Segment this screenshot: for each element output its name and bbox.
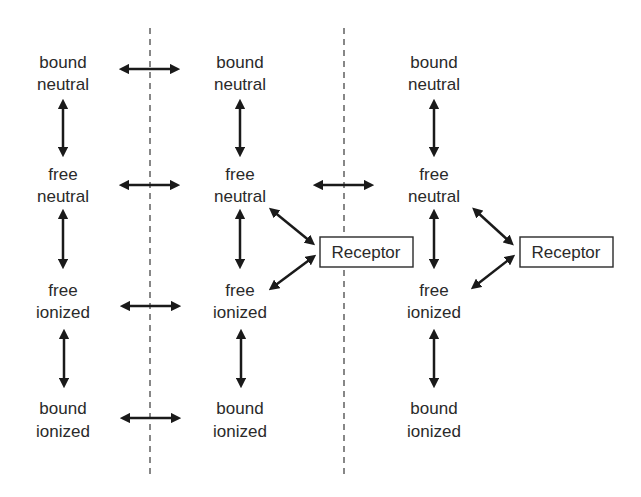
node-free-neutral: free: [225, 165, 254, 184]
svg-text:neutral: neutral: [214, 75, 266, 94]
node-bound-neutral: bound: [410, 53, 457, 72]
svg-text:Receptor: Receptor: [332, 243, 401, 262]
double-arrow-icon: [273, 258, 312, 287]
svg-text:ionized: ionized: [213, 422, 267, 441]
node-bound-ionized: bound: [410, 399, 457, 418]
node-bound-neutral: bound: [216, 53, 263, 72]
node-free-ionized: free: [419, 281, 448, 300]
double-arrow-icon: [273, 211, 311, 242]
node-free-ionized: free: [48, 281, 77, 300]
double-arrow-icon: [475, 258, 511, 286]
svg-text:neutral: neutral: [37, 187, 89, 206]
node-bound-ionized: bound: [39, 399, 86, 418]
receptor-2: Receptor: [520, 237, 613, 267]
svg-text:Receptor: Receptor: [532, 243, 601, 262]
double-arrow-icon: [476, 211, 510, 242]
node-bound-ionized: bound: [216, 399, 263, 418]
receptor-1: Receptor: [320, 237, 413, 267]
svg-text:neutral: neutral: [214, 187, 266, 206]
svg-text:neutral: neutral: [37, 75, 89, 94]
svg-text:ionized: ionized: [407, 303, 461, 322]
node-bound-neutral: bound: [39, 53, 86, 72]
node-free-neutral: free: [48, 165, 77, 184]
svg-text:neutral: neutral: [408, 187, 460, 206]
distribution-equilibrium-diagram: bound neutral free neutral free ionized …: [0, 0, 641, 497]
svg-text:ionized: ionized: [213, 303, 267, 322]
svg-text:neutral: neutral: [408, 75, 460, 94]
svg-text:ionized: ionized: [407, 422, 461, 441]
node-free-ionized: free: [225, 281, 254, 300]
svg-text:ionized: ionized: [36, 422, 90, 441]
node-free-neutral: free: [419, 165, 448, 184]
svg-text:ionized: ionized: [36, 303, 90, 322]
